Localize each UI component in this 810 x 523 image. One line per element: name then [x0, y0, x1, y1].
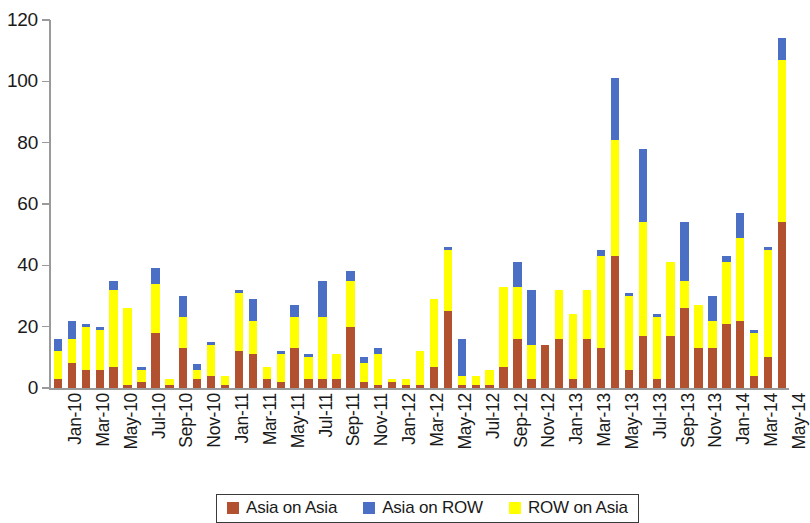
bar-stack[interactable] [430, 299, 438, 388]
bar-slot[interactable] [121, 20, 135, 388]
bar-stack[interactable] [82, 324, 90, 388]
bar-slot[interactable] [455, 20, 469, 388]
bar-stack[interactable] [555, 290, 563, 388]
bar-slot[interactable] [483, 20, 497, 388]
bar-slot[interactable] [427, 20, 441, 388]
bar-stack[interactable] [207, 342, 215, 388]
bar-slot[interactable] [678, 20, 692, 388]
bar-slot[interactable] [733, 20, 747, 388]
bar-slot[interactable] [232, 20, 246, 388]
bar-stack[interactable] [123, 308, 131, 388]
bar-stack[interactable] [374, 348, 382, 388]
bar-slot[interactable] [302, 20, 316, 388]
legend-item-asia-on-row[interactable]: Asia on ROW [363, 498, 483, 518]
bar-stack[interactable] [179, 296, 187, 388]
bar-stack[interactable] [694, 305, 702, 388]
bar-stack[interactable] [54, 339, 62, 388]
bar-slot[interactable] [497, 20, 511, 388]
bar-stack[interactable] [750, 330, 758, 388]
bar-slot[interactable] [148, 20, 162, 388]
bar-slot[interactable] [65, 20, 79, 388]
bar-stack[interactable] [583, 290, 591, 388]
bar-slot[interactable] [566, 20, 580, 388]
bar-stack[interactable] [458, 339, 466, 388]
bar-slot[interactable] [775, 20, 789, 388]
bar-slot[interactable] [413, 20, 427, 388]
bar-stack[interactable] [541, 345, 549, 388]
bar-slot[interactable] [622, 20, 636, 388]
bar-stack[interactable] [304, 354, 312, 388]
bar-stack[interactable] [416, 351, 424, 388]
bar-slot[interactable] [636, 20, 650, 388]
bar-slot[interactable] [51, 20, 65, 388]
bar-stack[interactable] [499, 287, 507, 388]
bar-stack[interactable] [109, 281, 117, 388]
bar-stack[interactable] [722, 256, 730, 388]
bar-stack[interactable] [472, 376, 480, 388]
bar-slot[interactable] [107, 20, 121, 388]
bar-stack[interactable] [68, 321, 76, 388]
bar-slot[interactable] [608, 20, 622, 388]
bar-slot[interactable] [176, 20, 190, 388]
bar-stack[interactable] [597, 250, 605, 388]
bar-slot[interactable] [552, 20, 566, 388]
bar-stack[interactable] [666, 262, 674, 388]
bar-stack[interactable] [611, 78, 619, 388]
bar-stack[interactable] [137, 367, 145, 388]
bar-stack[interactable] [736, 213, 744, 388]
bar-slot[interactable] [705, 20, 719, 388]
legend-item-asia-on-asia[interactable]: Asia on Asia [227, 498, 337, 518]
bar-stack[interactable] [625, 293, 633, 388]
bar-slot[interactable] [399, 20, 413, 388]
bar-stack[interactable] [708, 296, 716, 388]
bar-stack[interactable] [290, 305, 298, 388]
bar-stack[interactable] [346, 271, 354, 388]
bar-slot[interactable] [343, 20, 357, 388]
bar-stack[interactable] [193, 364, 201, 389]
bar-slot[interactable] [190, 20, 204, 388]
bar-stack[interactable] [151, 268, 159, 388]
bar-slot[interactable] [135, 20, 149, 388]
bar-slot[interactable] [385, 20, 399, 388]
bar-stack[interactable] [332, 354, 340, 388]
bar-slot[interactable] [162, 20, 176, 388]
bar-stack[interactable] [680, 222, 688, 388]
bar-slot[interactable] [719, 20, 733, 388]
bar-stack[interactable] [96, 327, 104, 388]
bar-slot[interactable] [469, 20, 483, 388]
bar-slot[interactable] [93, 20, 107, 388]
bar-slot[interactable] [511, 20, 525, 388]
legend-item-row-on-asia[interactable]: ROW on Asia [509, 498, 628, 518]
bar-slot[interactable] [538, 20, 552, 388]
bar-stack[interactable] [485, 370, 493, 388]
bar-stack[interactable] [263, 367, 271, 388]
bar-stack[interactable] [388, 379, 396, 388]
bar-stack[interactable] [639, 149, 647, 388]
bar-stack[interactable] [444, 247, 452, 388]
bar-slot[interactable] [761, 20, 775, 388]
bar-slot[interactable] [441, 20, 455, 388]
bar-stack[interactable] [764, 247, 772, 388]
bar-slot[interactable] [664, 20, 678, 388]
bar-slot[interactable] [650, 20, 664, 388]
bar-slot[interactable] [260, 20, 274, 388]
bar-stack[interactable] [527, 290, 535, 388]
bar-slot[interactable] [747, 20, 761, 388]
bar-stack[interactable] [778, 38, 786, 388]
bar-slot[interactable] [524, 20, 538, 388]
bar-stack[interactable] [249, 299, 257, 388]
bar-slot[interactable] [274, 20, 288, 388]
bar-slot[interactable] [288, 20, 302, 388]
bar-slot[interactable] [79, 20, 93, 388]
bar-slot[interactable] [218, 20, 232, 388]
bar-stack[interactable] [318, 281, 326, 388]
bar-slot[interactable] [246, 20, 260, 388]
bar-stack[interactable] [360, 357, 368, 388]
bar-stack[interactable] [569, 314, 577, 388]
bar-slot[interactable] [594, 20, 608, 388]
bar-stack[interactable] [221, 376, 229, 388]
bar-slot[interactable] [371, 20, 385, 388]
bar-stack[interactable] [277, 351, 285, 388]
bar-slot[interactable] [204, 20, 218, 388]
bar-slot[interactable] [357, 20, 371, 388]
